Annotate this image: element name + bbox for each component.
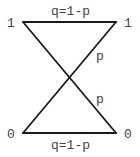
edge-label-top: q=1-p: [51, 4, 90, 19]
edge-label-diag-down: p: [96, 92, 104, 107]
node-label-bottom-left: 0: [7, 127, 15, 142]
edge-label-bottom: q=1-p: [51, 138, 90, 153]
edge-label-diag-up: p: [96, 49, 104, 64]
binary-channel-diagram: 1 1 0 0 q=1-p q=1-p p p: [0, 0, 140, 157]
node-label-top-left: 1: [7, 16, 15, 31]
node-label-top-right: 1: [124, 16, 132, 31]
node-label-bottom-right: 0: [124, 127, 132, 142]
